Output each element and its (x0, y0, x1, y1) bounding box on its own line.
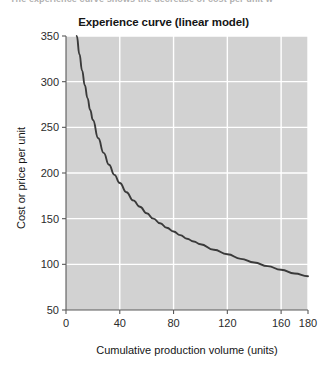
chart-plot: 50100150200250300350 04080120160180 Cumu… (0, 0, 327, 379)
chart-figure: Experience curve (linear model) 50100150… (0, 0, 327, 379)
x-tick-label: 0 (63, 317, 69, 329)
x-axis-ticks (66, 310, 308, 314)
x-tick-label: 40 (114, 317, 126, 329)
y-axis-title: Cost or price per unit (15, 127, 27, 229)
x-tick-label: 80 (167, 317, 179, 329)
y-tick-label: 300 (41, 76, 59, 88)
y-axis-tick-labels: 50100150200250300350 (41, 30, 59, 316)
y-tick-label: 150 (41, 213, 59, 225)
x-axis-title: Cumulative production volume (units) (96, 344, 278, 356)
x-axis-tick-labels: 04080120160180 (63, 317, 317, 329)
x-tick-label: 120 (218, 317, 236, 329)
y-tick-label: 50 (47, 304, 59, 316)
x-tick-label: 160 (272, 317, 290, 329)
y-tick-label: 200 (41, 167, 59, 179)
y-tick-label: 100 (41, 258, 59, 270)
y-axis-ticks (62, 36, 66, 310)
x-tick-label: 180 (299, 317, 317, 329)
y-tick-label: 250 (41, 121, 59, 133)
y-tick-label: 350 (41, 30, 59, 42)
